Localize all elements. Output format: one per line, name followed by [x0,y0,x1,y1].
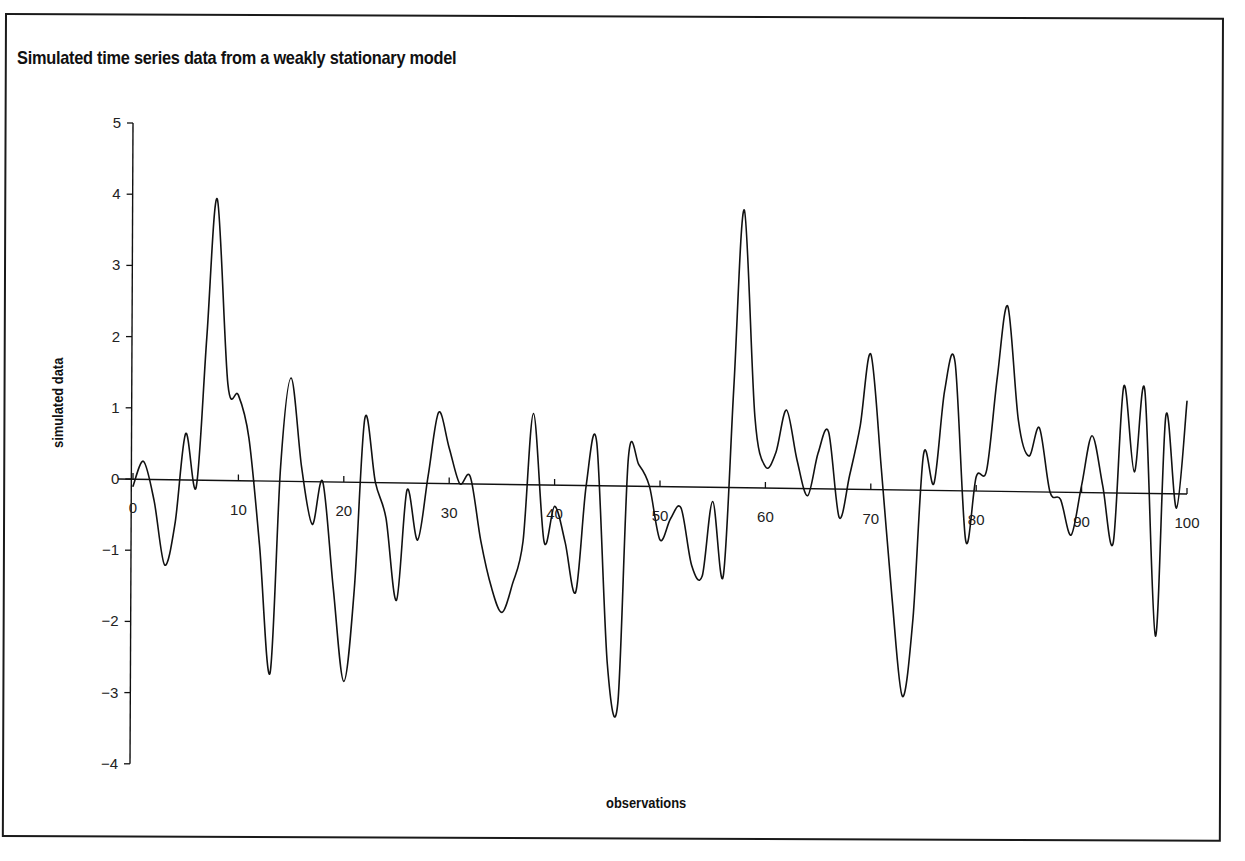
y-tick-label: 3 [112,256,120,273]
x-tick-label: 30 [441,504,458,521]
series-line [133,199,1187,717]
y-tick-label: 4 [112,185,120,202]
x-tick-label: 20 [335,502,352,519]
y-tick-label: 2 [112,328,120,345]
y-tick-label: −3 [101,684,118,701]
y-tick-label: 1 [111,399,119,416]
x-tick-label: 70 [862,510,879,527]
y-tick-label: −2 [102,612,119,629]
x-tick-label: 60 [757,508,774,525]
y-tick-label: −4 [101,755,118,772]
x-tick-label: 100 [1174,514,1199,531]
x-tick-label: 0 [129,499,137,516]
x-tick-label: 10 [230,501,247,518]
y-axis-line [130,123,133,764]
y-tick-label: 5 [113,114,121,131]
plot-area: 543210−1−2−3−4 0102030405060708090100 [0,0,1245,861]
y-tick-label: −1 [102,541,119,558]
y-axis: 543210−1−2−3−4 [101,114,133,772]
x-axis-line [118,479,1187,494]
